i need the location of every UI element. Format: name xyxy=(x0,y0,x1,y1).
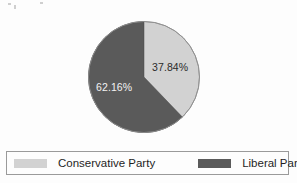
pie-label-conservative: 37.84% xyxy=(152,61,188,73)
chart-legend: Conservative Party Liberal Party xyxy=(6,151,289,175)
legend-item-liberal-party: Liberal Party xyxy=(198,152,297,174)
scan-artifact xyxy=(8,3,11,5)
scan-artifact xyxy=(14,5,16,9)
pie-chart-figure: 37.84% 62.16% Conservative Party Liberal… xyxy=(0,0,297,183)
pie-label-liberal: 62.16% xyxy=(96,81,132,93)
legend-label-liberal-party: Liberal Party xyxy=(242,157,297,169)
legend-swatch-conservative-party xyxy=(14,159,47,168)
scan-artifact xyxy=(40,2,43,4)
legend-swatch-liberal-party xyxy=(198,159,231,168)
legend-label-conservative-party: Conservative Party xyxy=(58,157,155,169)
legend-item-conservative-party: Conservative Party xyxy=(14,152,155,174)
pie-chart xyxy=(88,21,200,133)
pie-svg xyxy=(88,21,200,133)
